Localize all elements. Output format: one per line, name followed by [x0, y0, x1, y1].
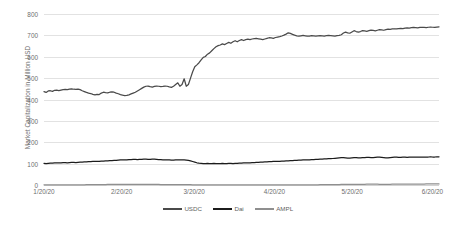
chart-legend: USDCDaiAMPL: [0, 205, 456, 212]
x-tick-label: 3/20/20: [184, 188, 205, 195]
series-line-dai: [44, 157, 439, 164]
y-axis-tick-labels: 0100200300400500600700800: [0, 14, 44, 185]
y-tick-label: 200: [27, 139, 38, 146]
y-tick-label: 500: [27, 75, 38, 82]
y-tick-label: 700: [27, 32, 38, 39]
series-layer: [44, 14, 439, 185]
x-tick-label: 4/20/20: [264, 188, 285, 195]
y-tick-label: 100: [27, 160, 38, 167]
x-tick-label: 5/20/20: [342, 188, 363, 195]
y-tick-label: 300: [27, 117, 38, 124]
series-line-ampl: [44, 184, 439, 185]
legend-swatch-dai: [213, 208, 232, 210]
legend-item-usdc[interactable]: USDC: [163, 205, 202, 212]
y-tick-label: 600: [27, 53, 38, 60]
legend-label: AMPL: [276, 205, 293, 212]
x-tick-label: 1/20/20: [33, 188, 54, 195]
series-line-usdc: [44, 27, 439, 96]
line-chart: Market Capitalization in Million USD 010…: [0, 0, 456, 225]
y-tick-label: 800: [27, 11, 38, 18]
legend-label: Dai: [234, 205, 243, 212]
legend-swatch-ampl: [255, 208, 274, 210]
legend-swatch-usdc: [163, 208, 182, 210]
x-tick-label: 2/20/20: [111, 188, 132, 195]
x-axis-tick-labels: 1/20/202/20/203/20/204/20/205/20/206/20/…: [44, 188, 439, 200]
x-tick-label: 6/20/20: [422, 188, 443, 195]
legend-item-ampl[interactable]: AMPL: [255, 205, 293, 212]
plot-area: [44, 14, 439, 185]
y-tick-label: 400: [27, 96, 38, 103]
legend-label: USDC: [184, 205, 202, 212]
legend-item-dai[interactable]: Dai: [213, 205, 244, 212]
